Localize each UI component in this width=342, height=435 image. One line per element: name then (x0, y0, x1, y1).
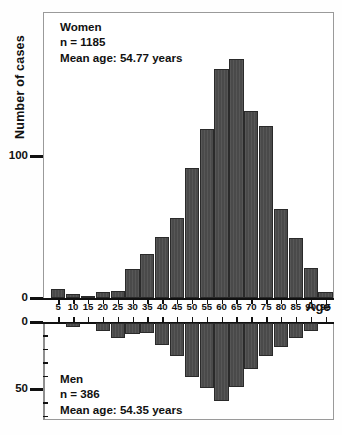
x-tick-bottom-45 (177, 317, 178, 322)
y-tick-label-0-bottom: 0 (0, 315, 28, 327)
bar-men-25 (111, 323, 125, 338)
x-tick-bottom-50 (192, 317, 193, 322)
bar-men-45 (170, 323, 184, 356)
figure-root: Number of cases 100 0 Women n = 1185 Mea… (0, 0, 342, 435)
bar-men-90 (304, 323, 318, 331)
x-tick-bottom-35 (147, 317, 148, 322)
men-annotation: Men n = 386 Mean age: 54.35 years (60, 371, 182, 417)
men-n-label: n = 386 (60, 386, 182, 401)
bar-women-40 (155, 237, 169, 298)
bar-men-60 (214, 323, 228, 401)
y-axis-title: Number of cases (13, 7, 27, 167)
x-tick-bottom-20 (103, 317, 104, 322)
bar-women-65 (229, 59, 243, 298)
y-tick-label-50-bottom: 50 (0, 382, 28, 394)
x-tick-bottom-85 (296, 317, 297, 322)
bar-women-85 (289, 238, 303, 298)
x-tick-bottom-15 (88, 317, 89, 322)
women-mean-label: Mean age: 54.77 years (60, 50, 182, 65)
x-tick-bottom-10 (73, 317, 74, 322)
x-tick-bottom-75 (266, 317, 267, 322)
y-tick-label-0-top: 0 (0, 291, 28, 303)
x-tick-bottom-65 (236, 317, 237, 322)
y-tick-50-bottom (30, 388, 43, 391)
bar-women-90 (304, 268, 318, 298)
bar-women-80 (274, 209, 288, 298)
x-tick-bottom-70 (251, 317, 252, 322)
y-tick-0-bottom (30, 321, 43, 324)
bar-women-30 (125, 269, 139, 298)
x-tick-bottom-60 (222, 317, 223, 322)
bar-men-75 (259, 323, 273, 356)
x-tick-bottom-80 (281, 317, 282, 322)
bar-men-35 (140, 323, 154, 333)
women-group-label: Women (60, 19, 182, 34)
bar-men-85 (289, 323, 303, 338)
bar-women-45 (170, 218, 184, 298)
bar-men-10 (66, 323, 80, 327)
men-group-label: Men (60, 371, 182, 386)
bar-women-55 (200, 129, 214, 298)
x-axis-title: Age (306, 299, 331, 314)
bar-men-40 (155, 323, 169, 345)
women-n-label: n = 1185 (60, 34, 182, 49)
x-tick-bottom-40 (162, 317, 163, 322)
bar-women-35 (140, 254, 154, 298)
y-tick-label-100: 100 (0, 149, 28, 161)
bar-women-50 (185, 168, 199, 298)
x-tick-bottom-5 (58, 317, 59, 322)
x-tick-bottom-95 (326, 317, 327, 322)
x-tick-bottom-90 (311, 317, 312, 322)
bar-men-80 (274, 323, 288, 347)
women-annotation: Women n = 1185 Mean age: 54.77 years (60, 19, 182, 65)
bar-women-5 (51, 289, 65, 298)
bar-men-55 (200, 323, 214, 388)
bar-men-20 (96, 323, 110, 331)
x-tick-bottom-55 (207, 317, 208, 322)
bar-men-30 (125, 323, 139, 334)
x-tick-bottom-30 (133, 317, 134, 322)
bar-women-75 (259, 126, 273, 298)
y-tick-100 (30, 155, 43, 158)
bar-women-25 (111, 291, 125, 298)
bar-men-50 (185, 323, 199, 377)
bar-men-65 (229, 323, 243, 387)
x-tick-bottom-25 (118, 317, 119, 322)
bar-women-60 (214, 69, 228, 298)
bar-women-70 (244, 111, 258, 298)
men-mean-label: Mean age: 54.35 years (60, 402, 182, 417)
bar-men-70 (244, 323, 258, 369)
